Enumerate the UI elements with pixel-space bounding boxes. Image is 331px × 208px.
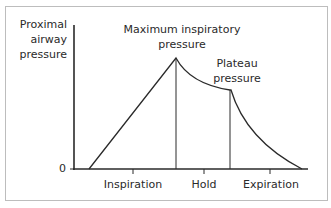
plateau-annotation-line-1: Plateau xyxy=(207,56,267,71)
peak-annotation-line-2: pressure xyxy=(123,37,241,52)
plateau-annotation-line-2: pressure xyxy=(207,71,267,86)
plateau-annotation: Plateau pressure xyxy=(207,56,267,86)
peak-annotation-line-1: Maximum inspiratory xyxy=(123,22,241,37)
phase-label-expiration: Expiration xyxy=(240,177,302,192)
y-axis-label: Proximal airway pressure xyxy=(19,17,67,62)
y-axis-label-line-1: Proximal xyxy=(19,17,67,32)
phase-label-inspiration: Inspiration xyxy=(98,177,168,192)
y-axis-label-line-2: airway xyxy=(19,32,67,47)
pressure-curve xyxy=(89,58,302,169)
peak-annotation: Maximum inspiratory pressure xyxy=(123,22,241,52)
zero-label: 0 xyxy=(59,161,66,176)
phase-label-hold: Hold xyxy=(184,177,224,192)
y-axis-label-line-3: pressure xyxy=(19,47,67,62)
